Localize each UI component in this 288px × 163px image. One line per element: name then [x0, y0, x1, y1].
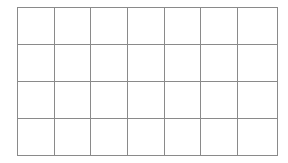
grid-cell-r3c2[interactable]: [54, 82, 91, 119]
grid-cell-r2c7[interactable]: [238, 45, 278, 82]
grid-cell-r3c6[interactable]: [201, 82, 238, 119]
grid-cell-r4c6[interactable]: [201, 119, 238, 156]
grid-cell-r2c4[interactable]: [127, 45, 164, 82]
grid-cell-r1c1[interactable]: [18, 8, 55, 45]
table-row[interactable]: [18, 45, 278, 82]
table-row[interactable]: [18, 119, 278, 156]
grid-cell-r1c5[interactable]: [164, 8, 201, 45]
grid-cell-r4c4[interactable]: [127, 119, 164, 156]
grid-cell-r3c7[interactable]: [238, 82, 278, 119]
grid-cell-r2c6[interactable]: [201, 45, 238, 82]
grid-cell-r1c3[interactable]: [91, 8, 128, 45]
grid-cell-r1c6[interactable]: [201, 8, 238, 45]
empty-grid-table[interactable]: [17, 7, 278, 156]
grid-cell-r4c3[interactable]: [91, 119, 128, 156]
grid-cell-r3c4[interactable]: [127, 82, 164, 119]
grid-cell-r2c3[interactable]: [91, 45, 128, 82]
grid-cell-r2c1[interactable]: [18, 45, 55, 82]
grid-cell-r3c3[interactable]: [91, 82, 128, 119]
grid-cell-r1c2[interactable]: [54, 8, 91, 45]
grid-cell-r4c5[interactable]: [164, 119, 201, 156]
table-row[interactable]: [18, 82, 278, 119]
grid-cell-r4c7[interactable]: [238, 119, 278, 156]
table-row[interactable]: [18, 8, 278, 45]
grid-canvas: [0, 0, 288, 163]
grid-cell-r1c7[interactable]: [238, 8, 278, 45]
grid-cell-r2c5[interactable]: [164, 45, 201, 82]
grid-body: [18, 8, 278, 156]
grid-cell-r1c4[interactable]: [127, 8, 164, 45]
grid-cell-r2c2[interactable]: [54, 45, 91, 82]
grid-cell-r3c5[interactable]: [164, 82, 201, 119]
grid-cell-r4c1[interactable]: [18, 119, 55, 156]
grid-cell-r4c2[interactable]: [54, 119, 91, 156]
grid-cell-r3c1[interactable]: [18, 82, 55, 119]
